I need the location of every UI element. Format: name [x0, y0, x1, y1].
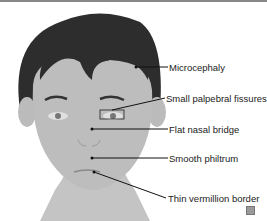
- label-small-palpebral-fissures: Small palpebral fissures: [166, 93, 267, 104]
- label-thin-vermillion-border: Thin vermillion border: [168, 193, 259, 204]
- label-smooth-philtrum: Smooth philtrum: [169, 153, 238, 164]
- face-illustration: [0, 0, 267, 221]
- publisher-logo-icon: [246, 206, 255, 215]
- label-flat-nasal-bridge: Flat nasal bridge: [169, 124, 239, 135]
- label-microcephaly: Microcephaly: [169, 62, 225, 73]
